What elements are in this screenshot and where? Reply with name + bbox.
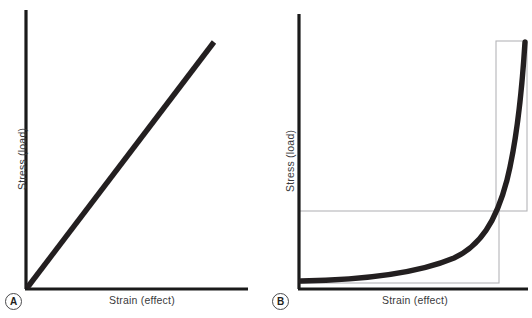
panel-b-exponential-curve <box>301 42 525 281</box>
panel-b-y-axis-label: Stress (load) <box>284 130 296 192</box>
panel-b-letter-badge: B <box>272 293 289 310</box>
panel-a-y-axis-label: Stress (load) <box>16 128 28 190</box>
panel-a-linear-curve <box>27 42 214 288</box>
panel-b: Stress (load) Strain (effect) B <box>266 0 532 318</box>
panel-a-x-axis-label: Strain (effect) <box>109 294 175 306</box>
panel-a: Stress (load) Strain (effect) A <box>0 0 266 318</box>
stress-strain-figure: Stress (load) Strain (effect) A Stress (… <box>0 0 532 318</box>
panel-b-plot <box>266 0 532 318</box>
panel-a-plot <box>0 0 266 318</box>
panel-b-x-axis-label: Strain (effect) <box>382 294 448 306</box>
panel-a-letter-badge: A <box>5 293 22 310</box>
